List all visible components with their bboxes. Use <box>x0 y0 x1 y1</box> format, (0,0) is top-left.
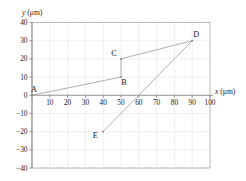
point-label-D: D <box>193 30 199 39</box>
x-tick-marks <box>50 95 210 98</box>
y-tick-label: 10 <box>20 73 28 82</box>
x-tick-label: 20 <box>64 98 72 107</box>
x-tick-label: 90 <box>189 98 197 107</box>
y-tick-label: 40 <box>20 18 28 27</box>
x-tick-label: 60 <box>135 98 143 107</box>
y-tick-label: −30 <box>16 145 28 154</box>
point-label-E: E <box>93 131 98 140</box>
coordinate-plot: 102030405060708090100 403020100−10−20−30… <box>0 0 246 181</box>
data-point-C <box>120 58 122 60</box>
y-tick-label: −10 <box>16 109 28 118</box>
y-axis-unit: (μm) <box>27 8 43 17</box>
x-tick-label: 40 <box>100 98 108 107</box>
y-tick-label: −20 <box>16 127 28 136</box>
x-axis-title: x (μm) <box>214 87 236 96</box>
point-labels: ABCDE <box>31 30 199 140</box>
x-axis-unit: (μm) <box>220 87 236 96</box>
x-tick-label: 70 <box>153 98 161 107</box>
y-tick-label: 20 <box>20 54 28 63</box>
x-tick-label: 80 <box>171 98 179 107</box>
x-tick-label: 30 <box>82 98 90 107</box>
y-tick-label: −40 <box>16 164 28 173</box>
point-label-B: B <box>121 78 127 87</box>
x-tick-label: 100 <box>205 98 216 107</box>
data-point-E <box>102 131 104 133</box>
data-point-A <box>31 94 33 96</box>
y-tick-label: 30 <box>20 36 28 45</box>
y-tick-labels: 403020100−10−20−30−40 <box>16 18 28 173</box>
y-tick-label: 0 <box>24 91 28 100</box>
chart-container: 102030405060708090100 403020100−10−20−30… <box>0 0 246 181</box>
point-label-C: C <box>111 49 117 58</box>
x-tick-label: 50 <box>117 98 125 107</box>
x-tick-label: 10 <box>46 98 54 107</box>
point-label-A: A <box>31 85 37 94</box>
y-axis-title: y (μm) <box>21 8 43 17</box>
data-point-D <box>191 40 193 42</box>
